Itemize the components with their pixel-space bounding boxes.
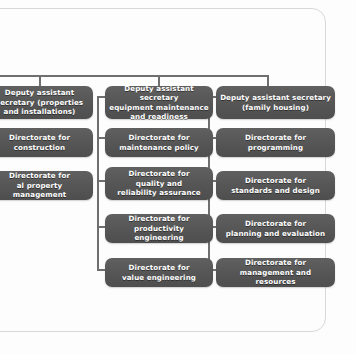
node-label: Directorate for productivity engineering xyxy=(109,214,209,242)
node-directorate-for-value-engineering[interactable]: Directorate for value engineering xyxy=(105,258,213,287)
node-deputy-assistant-secretary-equipment-maintenance-and-readiness[interactable]: Deputy assistant secretary equipment mai… xyxy=(105,86,213,119)
node-deputy-assistant-secretary-properties-and-installations[interactable]: Deputy assistant secretary (properties a… xyxy=(0,86,93,119)
node-directorate-for-management-and-resources[interactable]: Directorate for management and resources xyxy=(216,258,335,287)
trunk-drop-column-c xyxy=(267,75,269,86)
node-directorate-for-maintenance-policy[interactable]: Directorate for maintenance policy xyxy=(105,128,213,157)
spine-column-b xyxy=(97,96,99,271)
node-directorate-for-programming[interactable]: Directorate for programming xyxy=(216,128,335,157)
node-label: Deputy assistant secretary (properties a… xyxy=(0,88,83,116)
org-chart-page: Deputy assistant secretary (properties a… xyxy=(0,0,356,354)
node-directorate-for-construction[interactable]: Directorate for construction xyxy=(0,128,93,157)
node-label: Directorate for planning and evaluation xyxy=(226,219,325,238)
node-label: Deputy assistant secretary equipment mai… xyxy=(109,84,209,121)
node-directorate-for-planning-and-evaluation[interactable]: Directorate for planning and evaluation xyxy=(216,214,335,243)
node-label: Directorate for al property management xyxy=(0,171,89,199)
node-directorate-for-standards-and-design[interactable]: Directorate for standards and design xyxy=(216,171,335,200)
trunk-drop-column-a xyxy=(39,75,41,86)
node-directorate-for-quality-and-reliability-assurance[interactable]: Directorate for quality and reliability … xyxy=(105,167,213,200)
node-label: Directorate for programming xyxy=(245,133,306,152)
node-directorate-for-productivity-engineering[interactable]: Directorate for productivity engineering xyxy=(105,214,213,243)
node-label: Directorate for management and resources xyxy=(220,258,331,286)
node-label: Directorate for construction xyxy=(9,133,70,152)
node-label: Directorate for value engineering xyxy=(122,263,196,282)
node-label: Directorate for maintenance policy xyxy=(119,133,199,152)
node-label: Directorate for standards and design xyxy=(231,176,320,195)
node-deputy-assistant-secretary-family-housing[interactable]: Deputy assistant secretary (family housi… xyxy=(216,86,335,119)
node-directorate-for-real-property-management[interactable]: Directorate for al property management xyxy=(0,171,93,200)
node-label: Directorate for quality and reliability … xyxy=(117,169,201,197)
node-label: Deputy assistant secretary (family housi… xyxy=(220,93,331,112)
